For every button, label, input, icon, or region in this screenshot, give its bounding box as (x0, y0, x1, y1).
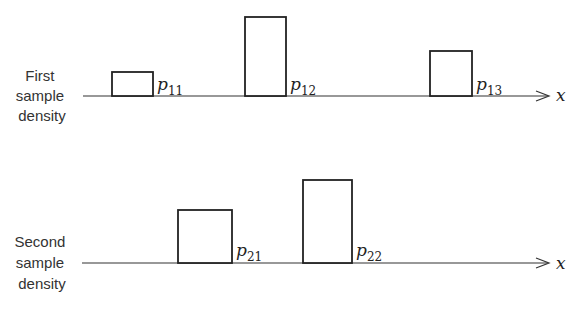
row-label-line: density (18, 275, 66, 292)
pulse-p22: p22 (303, 180, 382, 264)
row-label: Second sample density (14, 233, 69, 292)
pulse-label: p11 (157, 74, 183, 98)
pulse-box (245, 17, 286, 96)
pulse-label: p13 (476, 74, 502, 98)
second-sample-row: Second sample density x p21 p22 (14, 180, 566, 292)
row-label-line: Second (14, 233, 65, 250)
row-label-line: sample (16, 87, 64, 104)
pulse-label: p21 (236, 240, 262, 264)
first-sample-row: First sample density x p11 p12 p13 (16, 17, 566, 124)
pulse-box (430, 51, 472, 96)
row-label-line: First (25, 67, 55, 84)
pulse-box (112, 72, 153, 96)
pulse-box (178, 210, 232, 263)
row-label-line: sample (16, 254, 64, 271)
pulse-p11: p11 (112, 72, 183, 98)
sample-density-diagram: First sample density x p11 p12 p13 (0, 0, 579, 309)
pulse-label: p22 (356, 240, 382, 264)
axis-label: x (556, 253, 566, 273)
row-label-line: density (18, 107, 66, 124)
pulse-p21: p21 (178, 210, 262, 264)
pulse-label: p12 (290, 74, 316, 98)
axis-label: x (556, 85, 566, 105)
pulse-p12: p12 (245, 17, 316, 98)
pulse-p13: p13 (430, 51, 502, 98)
row-label: First sample density (16, 67, 69, 124)
pulse-box (303, 180, 352, 263)
